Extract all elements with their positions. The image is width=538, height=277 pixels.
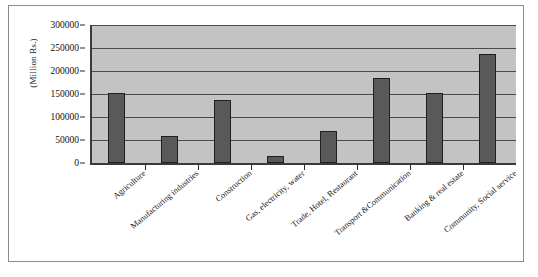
plot-area — [90, 25, 516, 165]
x-axis-category-labels: AgricultureManufacturing industriesConst… — [90, 168, 530, 268]
y-axis-tick-labels: 050000100000150000200000250000300000 — [33, 20, 85, 170]
y-axis-tick-label: 300000 — [51, 20, 80, 30]
y-axis-tick-mark — [80, 71, 85, 72]
gridline — [92, 71, 516, 72]
y-axis-tick-mark — [80, 48, 85, 49]
x-axis-category-label-text: Agriculture — [110, 168, 146, 201]
y-axis-tick-mark — [80, 117, 85, 118]
y-axis-tick-label: 150000 — [51, 89, 80, 99]
plot-inner — [92, 25, 516, 163]
y-axis-tick-label: 200000 — [51, 66, 80, 76]
chart-outer-frame: (Million Rs.) 05000010000015000020000025… — [8, 5, 524, 262]
gridline — [92, 117, 516, 118]
y-axis-tick-mark — [80, 25, 85, 26]
bar-chart-figure: (Million Rs.) 05000010000015000020000025… — [0, 0, 538, 277]
y-axis-tick-label: 0 — [74, 158, 79, 168]
y-axis-tick-label: 50000 — [55, 135, 79, 145]
gridline — [92, 48, 516, 49]
y-axis-tick-mark — [80, 163, 85, 164]
y-axis-tick-mark — [80, 94, 85, 95]
gridline — [92, 94, 516, 95]
y-axis-tick-label: 250000 — [51, 43, 80, 53]
y-axis-tick-mark — [80, 140, 85, 141]
bar — [108, 93, 125, 163]
gridline — [92, 25, 516, 26]
x-axis-category-label-text: Construction — [213, 168, 253, 204]
y-axis-tick-label: 100000 — [51, 112, 80, 122]
